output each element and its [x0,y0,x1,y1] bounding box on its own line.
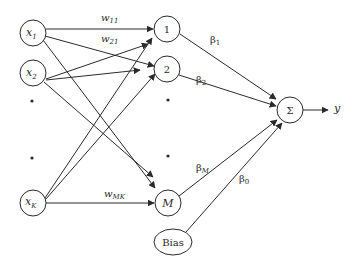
svg-text:1: 1 [164,24,170,35]
hidden-node-2: 2 [154,56,180,82]
output-label-y: y [333,102,341,115]
svg-text:2: 2 [164,64,170,75]
hidden-node-1: 1 [154,16,180,42]
hidden-node-M: M [155,190,181,216]
ellipsis-dots [30,98,169,159]
input-node-xK: xK [20,190,46,216]
weight-label-w21: w21 [101,33,118,46]
dot-hidden-1 [166,98,169,101]
input-hidden-connections [43,29,155,203]
sum-node: Σ [277,97,303,123]
hidden-sum-connections [179,34,328,232]
edge-bias-sum [186,123,282,232]
beta-label-0: β0 [239,173,249,186]
input-node-x2: x2 [20,60,46,86]
edge-x1-h2 [45,36,154,66]
edge-h2-sum [179,75,276,106]
beta-label-1: β1 [210,34,220,47]
edge-h1-sum [180,34,276,99]
beta-label-M: βM [196,162,210,175]
edge-x2-h1 [46,44,148,79]
edge-x2-hM [44,82,153,177]
weight-label-w11: w11 [101,12,118,25]
svg-text:M: M [161,197,174,210]
dot-hidden-2 [166,154,169,157]
edge-x1-hM [43,40,155,188]
edge-xK-h2 [46,74,155,199]
dot-input-1 [30,99,33,102]
svg-text:Bias: Bias [162,237,184,248]
input-node-x1: x1 [20,20,46,46]
weight-label-wMK: wMK [104,188,126,201]
edge-x2-h2 [46,70,140,80]
neural-network-diagram: x1 x2 xK 1 2 M Bias Σ y w11 w21 wMK β1 β… [0,0,357,269]
bias-node: Bias [154,229,192,255]
beta-label-2: β2 [196,74,206,87]
edge-xK-h1 [45,38,152,198]
svg-text:Σ: Σ [286,105,293,116]
dot-input-2 [30,156,33,159]
